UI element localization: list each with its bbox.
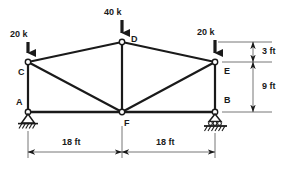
ground-hatch-B	[205, 126, 225, 131]
joint-D	[119, 39, 124, 44]
joint-E	[212, 59, 217, 64]
truss-members	[28, 42, 215, 112]
dim-label-9ft: 9 ft	[262, 82, 276, 91]
joint-label-D: D	[131, 35, 138, 44]
joint-label-B: B	[224, 96, 231, 105]
rollers-B	[209, 122, 222, 126]
roller-support-B	[204, 114, 227, 131]
pin-support-A	[18, 114, 38, 129]
joint-F	[119, 109, 124, 114]
joint-label-E: E	[224, 67, 230, 76]
load-label-C: 20 k	[10, 30, 28, 39]
member-C-D	[28, 42, 122, 62]
joint-C	[25, 59, 30, 64]
joint-label-F: F	[124, 119, 130, 128]
dim-label-span-right: 18 ft	[156, 138, 175, 147]
joint-label-A: A	[16, 98, 23, 107]
member-C-F	[28, 62, 122, 112]
truss-diagram	[0, 0, 298, 170]
dim-label-3ft: 3 ft	[262, 47, 276, 56]
load-label-E: 20 k	[197, 28, 215, 37]
member-F-E	[122, 62, 215, 112]
horizontal-dimensions	[28, 126, 215, 158]
load-label-D: 40 k	[104, 8, 122, 17]
joint-label-C: C	[18, 68, 25, 77]
member-D-E	[122, 42, 215, 62]
ground-hatch-A	[19, 124, 35, 129]
dim-label-span-left: 18 ft	[62, 138, 81, 147]
